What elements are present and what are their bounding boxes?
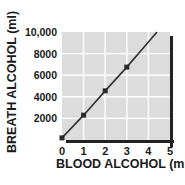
x-axis-title: BLOOD ALCOHOL (ml)	[56, 157, 184, 171]
x-tick-label: 3	[124, 145, 130, 157]
data-point-marker	[81, 113, 86, 118]
y-tick-label: 4000	[34, 91, 58, 103]
y-tick-label: 2000	[34, 112, 58, 124]
plot-background	[62, 32, 170, 140]
x-tick-label: 1	[81, 145, 87, 157]
y-tick-label: 8000	[34, 48, 58, 60]
x-tick-label: 0	[59, 145, 65, 157]
y-tick-label: 10,000	[25, 26, 57, 38]
x-tick-label: 2	[102, 145, 108, 157]
y-axis-title: BREATH ALCOHOL (ml)	[4, 13, 20, 153]
plot-shadow-bottom	[66, 140, 174, 143]
data-point-marker	[103, 88, 108, 93]
y-tick-label: 6000	[34, 69, 58, 81]
data-point-marker	[124, 65, 129, 70]
y-axis-title-wrap: BREATH ALCOHOL (ml)	[4, 13, 20, 153]
x-tick-label: 4	[145, 145, 152, 157]
chart: 012345200040006000800010,000 BREATH ALCO…	[0, 0, 185, 185]
data-point-marker	[60, 135, 65, 140]
x-tick-label: 5	[167, 145, 173, 157]
plot-shadow-right	[170, 36, 173, 147]
